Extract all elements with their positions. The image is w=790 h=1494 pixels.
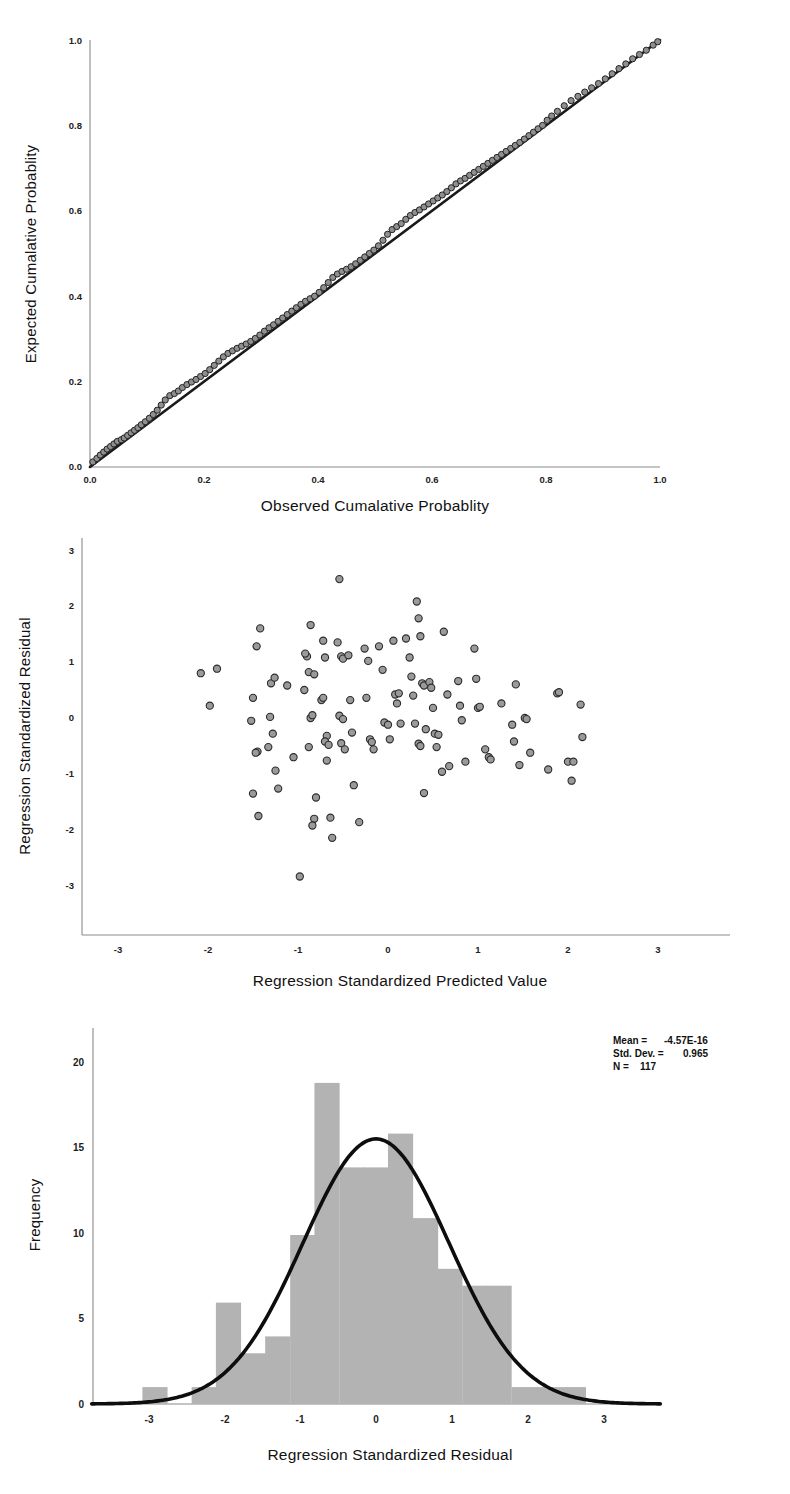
histogram-bar bbox=[364, 1167, 389, 1404]
scatter-data-point bbox=[393, 700, 400, 707]
scatter-data-point bbox=[570, 758, 577, 765]
stats-n-label: N = bbox=[613, 1061, 629, 1072]
pp-y-axis-title: Expected Cumalative Probablity bbox=[22, 144, 39, 363]
pp-x-tick: 0.6 bbox=[425, 474, 438, 485]
histogram-bars bbox=[142, 1083, 586, 1404]
scatter-data-point bbox=[384, 721, 391, 728]
pp-x-tick: 0.0 bbox=[83, 474, 96, 485]
scatter-data-point bbox=[312, 794, 319, 801]
histogram-bar bbox=[265, 1336, 290, 1404]
pp-data-point bbox=[375, 243, 381, 249]
pp-data-point bbox=[549, 113, 555, 119]
scatter-data-point bbox=[327, 814, 334, 821]
pp-data-point bbox=[321, 285, 327, 291]
scatter-data-point bbox=[253, 643, 260, 650]
histogram-bar bbox=[487, 1286, 512, 1404]
scatter-data-point bbox=[249, 694, 256, 701]
stats-sd-value: 0.965 bbox=[683, 1048, 708, 1059]
pp-x-tick: 0.2 bbox=[197, 474, 210, 485]
residual-scatter-panel: 3 2 1 0 -1 -2 -3 -3 -2 -1 0 1 2 3 Regres… bbox=[0, 520, 790, 1000]
pp-reference-line bbox=[90, 40, 660, 467]
scatter-data-point bbox=[370, 746, 377, 753]
histogram-bar bbox=[462, 1286, 487, 1404]
scatter-data-point bbox=[320, 694, 327, 701]
scatter-data-point bbox=[471, 645, 478, 652]
pp-x-tick: 0.4 bbox=[311, 474, 325, 485]
scatter-data-point bbox=[417, 633, 424, 640]
histogram-bar bbox=[413, 1218, 438, 1404]
scatter-data-point bbox=[473, 675, 480, 682]
scatter-data-point bbox=[309, 822, 316, 829]
scatter-data-point bbox=[334, 639, 341, 646]
scatter-data-point bbox=[435, 731, 442, 738]
scatter-data-point bbox=[482, 746, 489, 753]
scatter-data-point bbox=[284, 682, 291, 689]
pp-x-axis-title: Observed Cumalative Probablity bbox=[261, 497, 489, 514]
scatter-data-point bbox=[555, 689, 562, 696]
scatter-y-tick: 2 bbox=[69, 600, 74, 611]
pp-data-point bbox=[623, 61, 629, 67]
scatter-data-points bbox=[197, 576, 586, 881]
pp-y-tick: 0.0 bbox=[69, 461, 82, 472]
scatter-data-point bbox=[444, 691, 451, 698]
pp-x-tick-labels: 0.0 0.2 0.4 0.6 0.8 1.0 bbox=[83, 474, 666, 485]
scatter-data-point bbox=[363, 694, 370, 701]
scatter-data-point bbox=[411, 720, 418, 727]
hist-x-tick: -2 bbox=[221, 1414, 230, 1425]
scatter-data-point bbox=[323, 757, 330, 764]
scatter-data-point bbox=[309, 712, 316, 719]
scatter-data-point bbox=[420, 789, 427, 796]
scatter-data-point bbox=[339, 716, 346, 723]
scatter-data-point bbox=[275, 785, 282, 792]
hist-y-tick-labels: 0 5 10 15 20 bbox=[73, 1057, 85, 1410]
scatter-data-point bbox=[458, 717, 465, 724]
scatter-data-point bbox=[438, 768, 445, 775]
residual-histogram-panel: 0 5 10 15 20 -3 -2 -1 0 1 2 3 Regression… bbox=[0, 1000, 790, 1494]
scatter-data-point bbox=[433, 744, 440, 751]
hist-y-axis-title: Frequency bbox=[26, 1178, 43, 1251]
pp-y-tick: 0.8 bbox=[69, 120, 82, 131]
scatter-y-axis-title: Regression Standardized Residual bbox=[16, 617, 33, 854]
scatter-data-point bbox=[307, 621, 314, 628]
normal-pp-plot-panel: 1.0 0.8 0.6 0.4 0.2 0.0 0.0 0.2 0.4 0.6 … bbox=[0, 0, 790, 520]
scatter-data-point bbox=[321, 654, 328, 661]
scatter-data-point bbox=[512, 681, 519, 688]
pp-data-point bbox=[616, 66, 622, 72]
scatter-data-point bbox=[545, 766, 552, 773]
scatter-data-point bbox=[320, 637, 327, 644]
scatter-data-point bbox=[329, 834, 336, 841]
scatter-data-point bbox=[523, 716, 530, 723]
scatter-data-point bbox=[413, 598, 420, 605]
scatter-data-point bbox=[336, 576, 343, 583]
scatter-data-point bbox=[440, 628, 447, 635]
pp-data-point bbox=[636, 51, 642, 57]
scatter-data-point bbox=[510, 738, 517, 745]
scatter-y-tick: 1 bbox=[69, 656, 75, 667]
scatter-data-point bbox=[361, 645, 368, 652]
pp-data-point bbox=[568, 98, 574, 104]
hist-y-tick: 20 bbox=[73, 1057, 85, 1068]
scatter-data-point bbox=[406, 654, 413, 661]
scatter-data-point bbox=[255, 812, 262, 819]
scatter-data-point bbox=[249, 790, 256, 797]
scatter-x-tick: 1 bbox=[475, 944, 481, 955]
scatter-data-point bbox=[397, 720, 404, 727]
scatter-data-point bbox=[429, 704, 436, 711]
scatter-x-tick-labels: -3 -2 -1 0 1 2 3 bbox=[114, 944, 661, 955]
scatter-data-point bbox=[568, 777, 575, 784]
scatter-x-tick: -2 bbox=[204, 944, 212, 955]
scatter-x-axis-title: Regression Standardized Predicted Value bbox=[253, 972, 547, 989]
scatter-data-point bbox=[408, 673, 415, 680]
scatter-data-point bbox=[271, 674, 278, 681]
histogram-bar bbox=[536, 1387, 561, 1404]
scatter-data-point bbox=[350, 782, 357, 789]
histogram-svg: 0 5 10 15 20 -3 -2 -1 0 1 2 3 Regression… bbox=[0, 1000, 790, 1494]
scatter-data-point bbox=[257, 625, 264, 632]
pp-data-point bbox=[630, 56, 636, 62]
scatter-data-point bbox=[305, 744, 312, 751]
scatter-data-point bbox=[415, 615, 422, 622]
scatter-y-tick: 3 bbox=[69, 545, 74, 556]
scatter-data-point bbox=[265, 744, 272, 751]
pp-data-point bbox=[589, 85, 595, 91]
scatter-data-point bbox=[375, 643, 382, 650]
